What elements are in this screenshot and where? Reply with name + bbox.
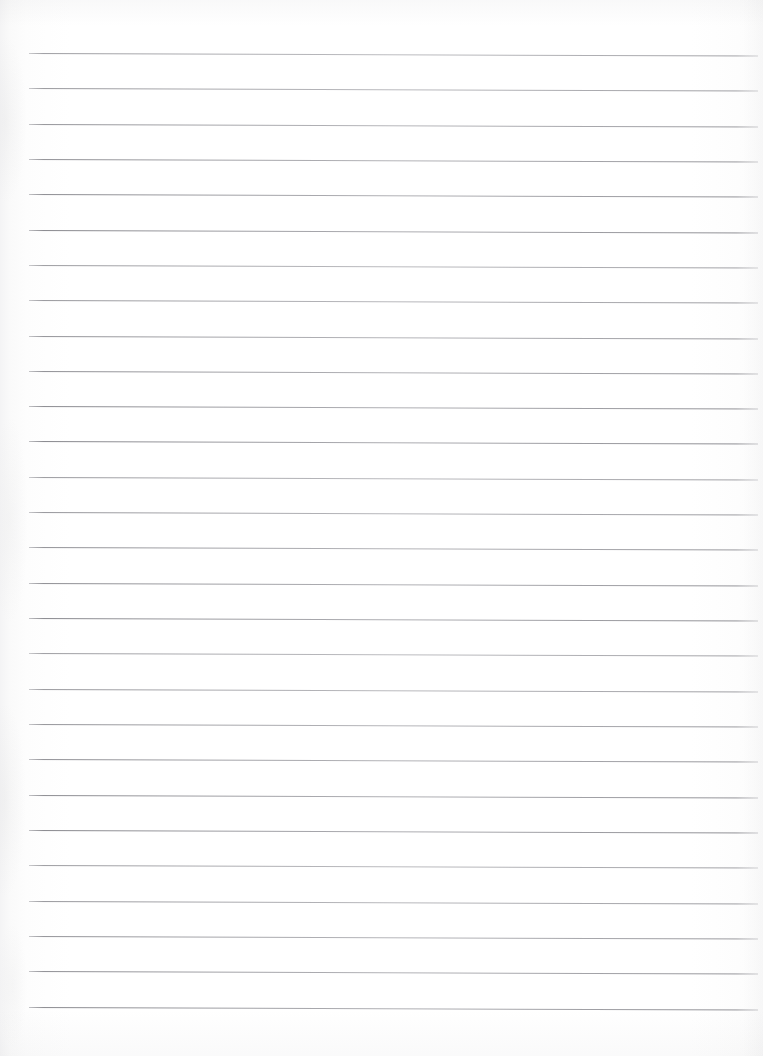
ruled-line <box>29 194 758 198</box>
ruled-line <box>29 336 758 340</box>
ruled-line <box>29 795 758 799</box>
ruled-line <box>29 583 758 587</box>
ruled-line <box>29 406 758 410</box>
ruled-line <box>29 547 758 551</box>
ruled-line <box>29 830 758 834</box>
ruled-line <box>29 441 758 445</box>
scanned-page <box>0 0 763 1056</box>
ruled-line <box>29 371 758 375</box>
ruled-line <box>29 971 758 975</box>
ruled-line <box>29 759 758 763</box>
ruled-line <box>29 618 758 622</box>
ruled-line <box>29 1007 758 1011</box>
ruled-line <box>29 724 758 728</box>
ruled-line <box>29 88 758 92</box>
ruled-lines-group <box>0 0 763 1056</box>
ruled-line <box>29 689 758 693</box>
ruled-line <box>29 936 758 940</box>
ruled-line <box>29 477 758 481</box>
ruled-line <box>29 230 758 234</box>
ruled-line <box>29 512 758 516</box>
ruled-line <box>29 159 758 163</box>
ruled-line <box>29 53 758 57</box>
ruled-line <box>29 865 758 869</box>
ruled-line <box>29 901 758 905</box>
ruled-line <box>29 300 758 304</box>
ruled-line <box>29 265 758 269</box>
ruled-line <box>29 124 758 128</box>
ruled-line <box>29 653 758 657</box>
